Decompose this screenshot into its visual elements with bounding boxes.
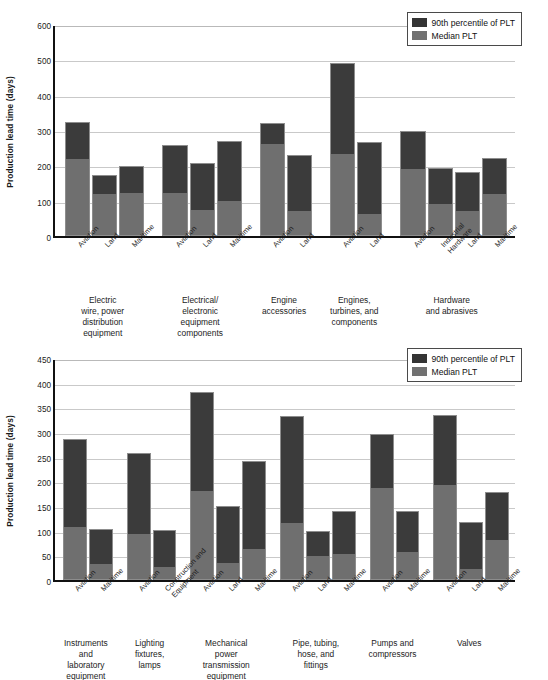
chart-panel-bottom: Production lead time (days) 050100150200… [0, 340, 548, 680]
legend-swatch-median [412, 367, 427, 376]
gridline [55, 61, 515, 62]
bar-stacked [242, 461, 266, 580]
bar-segment-median [281, 523, 303, 579]
x-axis-group-label-line: compressors [351, 649, 435, 660]
y-axis-tick-label: 200 [37, 163, 51, 172]
legend-swatch-p90 [412, 354, 427, 363]
x-axis-group-label-line: Electric [46, 295, 159, 306]
bar-segment-median [371, 488, 393, 579]
x-axis-group-label-line: equipment [143, 317, 256, 328]
x-axis-group-label-line: wire, power [46, 306, 159, 317]
legend-label-p90: 90th percentile of PLT [432, 18, 515, 28]
chart-panel-top: Production lead time (days) 010020030040… [0, 0, 548, 340]
legend-row-median: Median PLT [412, 365, 515, 378]
y-axis-tick-label: 300 [37, 430, 51, 439]
x-axis-group-label-line: equipment [171, 671, 281, 680]
bar-segment-median [128, 534, 150, 579]
x-axis-group-label-line: fittings [261, 660, 371, 671]
x-axis-group-label-line: distribution [46, 317, 159, 328]
bar-stacked [280, 416, 304, 580]
bar-segment-median [243, 549, 265, 579]
legend-swatch-median [412, 31, 427, 40]
bar-stacked [260, 123, 285, 236]
bar-segment-median [434, 485, 456, 579]
legend-label-median: Median PLT [432, 31, 478, 41]
legend-top: 90th percentile of PLT Median PLT [407, 12, 522, 46]
bar-stacked [162, 145, 187, 236]
gridline [55, 385, 515, 386]
legend-label-median: Median PLT [432, 367, 478, 377]
plot-area-bottom: 050100150200250300350400450 [53, 360, 515, 582]
y-axis-tick-label: 200 [37, 479, 51, 488]
bar-stacked [287, 155, 312, 236]
y-axis-tick-label: 100 [37, 528, 51, 537]
y-axis-tick-label: 50 [42, 553, 51, 562]
bar-stacked [433, 415, 457, 580]
y-axis-tick-label: 450 [37, 356, 51, 365]
bar-stacked [217, 141, 242, 236]
y-axis-tick-label: 500 [37, 57, 51, 66]
gridline [55, 409, 515, 410]
legend-row-p90: 90th percentile of PLT [412, 16, 515, 29]
gridline [55, 97, 515, 98]
legend-row-median: Median PLT [412, 29, 515, 42]
y-axis-title-top: Production lead time (days) [2, 0, 18, 340]
bar-stacked [400, 131, 425, 236]
bar-stacked [65, 122, 90, 236]
bar-stacked [357, 142, 382, 236]
bar-stacked [332, 511, 356, 580]
legend-label-p90: 90th percentile of PLT [432, 354, 515, 364]
bar-segment-median [218, 201, 241, 235]
y-axis-tick-label: 600 [37, 22, 51, 31]
x-axis-group-label-line: equipment [44, 671, 128, 680]
x-axis-group-label-line: Hardware [381, 295, 522, 306]
bar-segment-median [163, 193, 186, 235]
bar-stacked [63, 439, 87, 580]
bar-stacked [482, 158, 507, 236]
y-axis-title-bottom: Production lead time (days) [2, 340, 18, 680]
bar-stacked [127, 453, 151, 580]
x-axis-group-label: Valves [414, 638, 524, 649]
bar-segment-median [120, 193, 143, 235]
y-axis-tick-label: 400 [37, 92, 51, 101]
bar-segment-median [401, 169, 424, 235]
y-axis-tick-label: 0 [46, 578, 51, 587]
bar-stacked [370, 434, 394, 580]
y-axis-tick-label: 350 [37, 405, 51, 414]
y-axis-tick-label: 250 [37, 454, 51, 463]
x-axis-group-label: Electrical/electronicequipmentcomponents [143, 295, 256, 339]
legend-row-p90: 90th percentile of PLT [412, 352, 515, 365]
x-axis-group-label: Hardwareand abrasives [381, 295, 522, 317]
x-axis-group-label-line: components [143, 328, 256, 339]
x-axis-group-label-line: components [311, 317, 397, 328]
bar-segment-median [483, 194, 506, 235]
bar-segment-median [66, 159, 89, 235]
y-axis-tick-label: 0 [46, 234, 51, 243]
y-axis-tick-label: 300 [37, 128, 51, 137]
gridline [55, 132, 515, 133]
bar-stacked [330, 63, 355, 236]
x-axis-group-label-line: and abrasives [381, 306, 522, 317]
bar-segment-median [64, 527, 86, 579]
chart-page: Production lead time (days) 010020030040… [0, 0, 548, 680]
bar-segment-median [331, 154, 354, 235]
bar-stacked [485, 492, 509, 580]
bar-stacked [119, 166, 144, 236]
y-axis-tick-label: 100 [37, 198, 51, 207]
bar-segment-median [261, 144, 284, 235]
x-axis-group-label-line: electronic [143, 306, 256, 317]
plot-area-top: 0100200300400500600 [53, 26, 515, 238]
legend-swatch-p90 [412, 18, 427, 27]
x-axis-group-label-line: Electrical/ [143, 295, 256, 306]
legend-bottom: 90th percentile of PLT Median PLT [407, 348, 522, 382]
y-axis-tick-label: 400 [37, 380, 51, 389]
x-axis-group-label-line: Valves [414, 638, 524, 649]
x-axis-group-label: Electricwire, powerdistributionequipment [46, 295, 159, 339]
x-axis-group-label-line: equipment [46, 328, 159, 339]
bar-segment-median [486, 540, 508, 579]
y-axis-tick-label: 150 [37, 504, 51, 513]
